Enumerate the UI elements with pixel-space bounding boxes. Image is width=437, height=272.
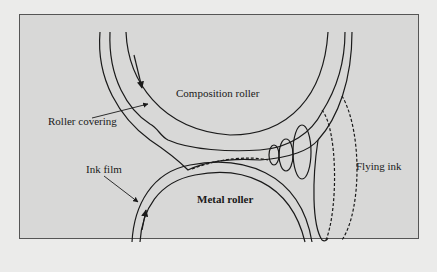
roller-covering-label: Roller covering xyxy=(48,115,117,127)
ink-stretch-tail xyxy=(314,140,328,241)
metal-roller-rotation-arrow xyxy=(142,210,146,230)
flying-ink-label: Flying ink xyxy=(356,160,402,172)
ink-film-label: Ink film xyxy=(86,163,122,175)
composition-roller-label: Composition roller xyxy=(176,87,259,99)
flying-ink-outer-dashed xyxy=(342,96,357,240)
roller-nip-diagram xyxy=(0,0,437,272)
flying-ink-inner-dashed xyxy=(322,110,335,240)
ink-film-leader xyxy=(104,176,138,202)
roller-covering-outer-arc xyxy=(100,32,352,170)
ink-bubble-large xyxy=(293,125,311,179)
composition-roller-inner-arc xyxy=(126,32,328,135)
metal-roller-label: Metal roller xyxy=(197,193,253,205)
